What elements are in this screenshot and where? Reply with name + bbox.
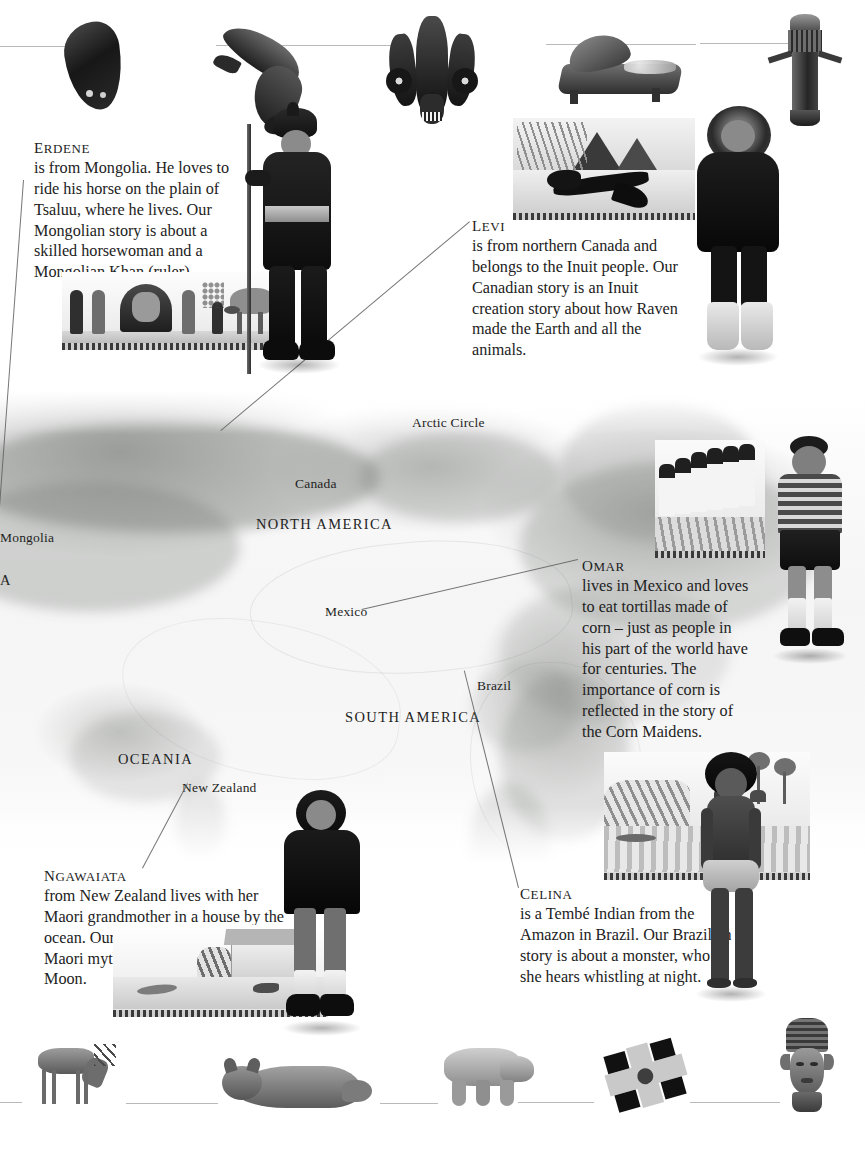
illus-camel-leg-1 (237, 312, 242, 334)
photo-boot-right (299, 340, 335, 360)
map-label-asia: A (0, 572, 12, 589)
map-label-mongolia: Mongolia (0, 530, 54, 546)
story-omar: Omar lives in Mexico and loves to eat to… (582, 552, 754, 742)
artifact-grinding-stone (560, 30, 690, 108)
bottom-rule-2 (126, 1103, 218, 1104)
illus-maiden-3 (691, 452, 707, 512)
cross-group (599, 1034, 693, 1116)
bear-head (500, 1056, 534, 1082)
illus-maiden-4 (707, 448, 723, 510)
illus-palm-trunk-3 (783, 772, 786, 804)
photo-mukluk-right (741, 302, 773, 350)
photo-foot-right (733, 978, 757, 988)
bear-leg-2 (476, 1080, 490, 1106)
illustration-raven-arctic-scene (513, 118, 695, 220)
illus-maiden-5 (723, 446, 739, 508)
bronze-head-ear-left (780, 1054, 790, 1070)
photo-leg-right (814, 566, 832, 602)
map-label-north-america: NORTH AMERICA (256, 516, 393, 533)
artifact-cat (218, 1050, 372, 1110)
photo-shadow (695, 986, 767, 1002)
artifact-cross-ornament (600, 1040, 696, 1114)
photo-face (721, 120, 755, 152)
illus-figure-1 (70, 290, 83, 334)
photo-shoe-left (286, 994, 320, 1016)
bronze-head-ear-right (824, 1054, 834, 1070)
bronze-head-mouth (801, 1078, 813, 1083)
bear-leg-1 (452, 1080, 466, 1106)
photo-leg-right (301, 266, 327, 350)
illus-figure-3 (182, 290, 195, 334)
illus-maiden-2 (675, 458, 691, 514)
map-label-mexico: Mexico (325, 604, 367, 620)
illus-khan (132, 292, 160, 322)
bear-leg-3 (500, 1080, 514, 1106)
artifact-ceremonial-mask (384, 16, 480, 128)
photo-sweatshirt (284, 830, 360, 914)
map-label-new-zealand: New Zealand (182, 780, 257, 796)
photo-polo-shirt (778, 474, 842, 534)
photo-sash (265, 206, 329, 222)
photo-leg-left (788, 566, 806, 602)
photo-leg-left (711, 246, 737, 308)
photo-torso (707, 796, 755, 868)
page-root: Arctic Circle Canada NORTH AMERICA Mongo… (0, 0, 865, 1152)
photo-boot-left (263, 340, 299, 360)
bottom-rule-5 (690, 1102, 780, 1103)
photo-boy-in-fur-trimmed-parka (685, 106, 789, 368)
photo-wrap (703, 860, 759, 892)
photo-leg-right (324, 908, 346, 974)
photo-leg-left (294, 908, 316, 974)
story-body-omar: lives in Mexico and loves to eat tortill… (582, 576, 754, 742)
illus-canoe (616, 834, 656, 842)
photo-shadow (282, 1020, 362, 1036)
map-label-oceania: OCEANIA (118, 751, 193, 768)
caribou-leg-1 (42, 1070, 46, 1104)
photo-shadow (697, 348, 779, 366)
illus-camel-head (224, 306, 240, 314)
photo-shorts (780, 530, 840, 570)
photo-girl-in-dark-hooded-sweatshirt (272, 790, 372, 1040)
bronze-head-face (790, 1048, 824, 1094)
artifact-bronze-head (772, 1018, 842, 1114)
story-erdene: Erdene is from Mongolia. He loves to rid… (34, 134, 249, 283)
photo-sock-left (788, 598, 806, 632)
photo-leg-left (269, 266, 295, 350)
illus-raven-body (547, 170, 581, 190)
photo-leg-left (711, 888, 729, 984)
map-label-arctic-circle: Arctic Circle (412, 415, 485, 431)
cat-tail (342, 1080, 372, 1102)
photo-pole (247, 124, 251, 374)
illus-mountain-2 (617, 138, 657, 170)
photo-parka (697, 152, 779, 252)
caribou-leg-2 (52, 1070, 56, 1104)
bronze-head-eye-left (796, 1062, 804, 1066)
bronze-head-neck (792, 1092, 822, 1112)
photo-shoe-right (812, 628, 844, 646)
illus-border-strip (655, 551, 765, 558)
artifact-carved-fish (60, 22, 130, 112)
artifact-polar-bear (438, 1036, 538, 1108)
bronze-head-eye-right (810, 1062, 818, 1066)
photo-arm (245, 170, 271, 186)
illustration-corn-maidens-scene (655, 440, 765, 558)
photo-foot-left (707, 978, 731, 988)
story-levi: Levi is from northern Canada and belongs… (472, 212, 684, 361)
photo-face (306, 800, 336, 830)
caribou-leg-4 (84, 1070, 88, 1104)
illus-border-strip (513, 213, 695, 220)
bottom-rule-1 (0, 1102, 22, 1103)
story-name-erdene: Erdene (34, 134, 249, 157)
photo-leg-right (735, 888, 753, 984)
photo-leg-right (741, 246, 767, 308)
photo-hat-tip (287, 102, 299, 116)
story-name-ngawaiata: Ngawaiata (44, 862, 294, 885)
caribou-antlers (94, 1044, 116, 1066)
story-body-levi: is from northern Canada and belongs to t… (472, 236, 684, 360)
photo-shadow (772, 648, 848, 664)
caribou-leg-3 (76, 1070, 80, 1104)
photo-mukluk-left (707, 302, 739, 350)
illus-rays (517, 122, 587, 176)
bottom-rule-3 (380, 1103, 438, 1104)
photo-girl-with-body-paint-and-wrap (687, 752, 775, 1004)
